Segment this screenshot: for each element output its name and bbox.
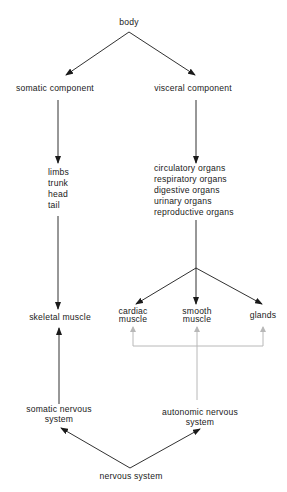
organ-digestive: digestive organs bbox=[154, 185, 220, 196]
node-visceral-component: visceral component bbox=[154, 83, 232, 94]
node-somatic-component: somatic component bbox=[16, 83, 94, 94]
part-trunk: trunk bbox=[48, 178, 68, 189]
node-body: body bbox=[119, 17, 138, 28]
organ-circulatory: circulatory organs bbox=[154, 163, 225, 174]
node-cardiac-muscle: cardiac muscle bbox=[118, 307, 147, 323]
arrow-to-glands bbox=[196, 268, 262, 304]
organ-reproductive: reproductive organs bbox=[154, 207, 234, 218]
arrow-body-to-visceral bbox=[129, 32, 195, 75]
node-smooth-muscle: smooth muscle bbox=[182, 307, 211, 323]
arrow-nervous-to-autonomic bbox=[130, 429, 200, 468]
arrow-nervous-to-somatic bbox=[61, 428, 130, 468]
autonomic-ns-line1: autonomic nervous bbox=[162, 407, 238, 417]
part-tail: tail bbox=[48, 200, 60, 211]
cardiac-line2: muscle bbox=[118, 315, 147, 323]
organ-respiratory: respiratory organs bbox=[154, 174, 227, 185]
arrow-to-cardiac bbox=[136, 268, 196, 304]
arrow-body-to-somatic bbox=[66, 32, 129, 75]
somatic-ns-line1: somatic nervous bbox=[26, 404, 92, 414]
part-head: head bbox=[48, 189, 68, 200]
node-nervous-system: nervous system bbox=[100, 471, 163, 482]
node-glands: glands bbox=[250, 310, 277, 321]
node-autonomic-nervous-system: autonomic nervous system bbox=[162, 407, 238, 427]
somatic-ns-line2: system bbox=[26, 414, 92, 424]
smooth-line2: muscle bbox=[182, 315, 211, 323]
node-skeletal-muscle: skeletal muscle bbox=[29, 312, 91, 323]
organ-urinary: urinary organs bbox=[154, 196, 212, 207]
node-somatic-nervous-system: somatic nervous system bbox=[26, 404, 92, 424]
part-limbs: limbs bbox=[48, 167, 69, 178]
autonomic-ns-line2: system bbox=[162, 417, 238, 427]
